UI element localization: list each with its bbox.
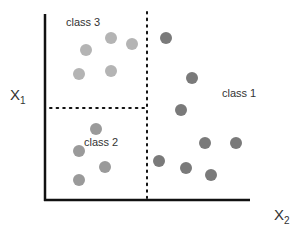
class-1-point [230,137,242,149]
class-1-point [160,32,172,44]
class-2-point [90,123,102,135]
class-3-point [105,32,117,44]
class-3-point [73,68,85,80]
class-3-point [80,44,92,56]
data-points [73,32,242,186]
class-3-point [105,65,117,77]
class-2-point [99,161,111,173]
class-1-point [153,155,165,167]
class-2-point [73,174,85,186]
class-1-point [180,162,192,174]
class-3-label: class 3 [66,16,100,28]
class-1-point [199,137,211,149]
class-1-label: class 1 [222,87,256,99]
x-axis-label: X2 [274,206,290,226]
class-1-point [186,72,198,84]
class-1-point [175,104,187,116]
class-1-point [205,169,217,181]
class-2-label: class 2 [84,136,118,148]
class-3-point [126,38,138,50]
y-axis-label: X1 [10,86,26,106]
classification-diagram [0,0,295,233]
